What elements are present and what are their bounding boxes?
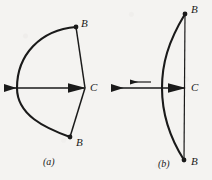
bow-tip-upper-dot-a xyxy=(74,25,79,30)
label-c-a: C xyxy=(90,82,97,93)
bowstring-b xyxy=(184,14,185,160)
bowstring-upper-a xyxy=(76,27,85,88)
figure-container: B B C (a) B B C (b) xyxy=(0,0,212,180)
label-b-lower-a: B xyxy=(76,137,83,148)
arrow-nock-wedge-b xyxy=(168,83,186,93)
bow-tip-lower-dot-a xyxy=(68,135,73,140)
caption-panel-a: (a) xyxy=(43,157,55,167)
caption-panel-b: (b) xyxy=(158,159,170,169)
label-b-lower-b: B xyxy=(191,156,198,167)
bowstring-lower-a xyxy=(70,88,85,137)
panel-a-group xyxy=(4,25,86,140)
bow-and-arrow-diagram xyxy=(0,0,212,180)
bow-tip-lower-dot-b xyxy=(182,158,187,163)
bow-limb-a xyxy=(17,27,76,137)
panel-b-group xyxy=(111,12,187,163)
label-c-b: C xyxy=(191,82,198,93)
label-b-upper-b: B xyxy=(191,4,198,15)
bow-tip-upper-dot-b xyxy=(183,12,188,17)
label-b-upper-a: B xyxy=(81,18,88,29)
